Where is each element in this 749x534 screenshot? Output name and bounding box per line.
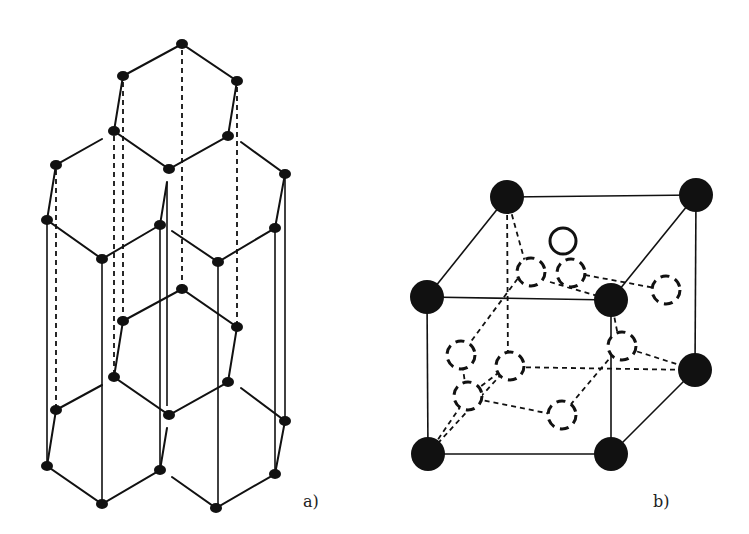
dashed-atom xyxy=(517,258,545,286)
panel-b-label: b) xyxy=(653,492,669,511)
open-interstitial-atom xyxy=(550,228,576,254)
vertical-solid-lines xyxy=(47,174,285,508)
bottom-layer-bonds xyxy=(47,289,285,508)
dashed-atom xyxy=(557,259,585,287)
corner-atom xyxy=(490,180,524,214)
panel-a-hexagonal-structure: a) xyxy=(41,39,319,513)
corner-atom xyxy=(410,280,444,314)
dashed-atom xyxy=(454,382,482,410)
dashed-atom xyxy=(608,332,636,360)
dashed-atom xyxy=(548,401,576,429)
dashed-atom xyxy=(447,341,475,369)
corner-atom xyxy=(679,178,713,212)
panel-b-cubic-cell: b) xyxy=(410,178,713,511)
dashed-atom xyxy=(652,276,680,304)
dashed-atom xyxy=(496,352,524,380)
corner-atom xyxy=(594,283,628,317)
dashed-atoms xyxy=(447,258,680,429)
top-layer-bonds xyxy=(47,44,285,262)
corner-atom xyxy=(411,437,445,471)
panel-a-label: a) xyxy=(303,492,319,511)
crystal-structures-figure: a) xyxy=(0,0,749,534)
corner-atom xyxy=(594,437,628,471)
vertical-dashed-lines xyxy=(56,50,237,410)
corner-atom xyxy=(678,353,712,387)
